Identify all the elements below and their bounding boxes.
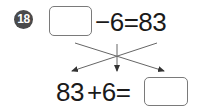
- answer-box-bottom[interactable]: [144, 77, 188, 106]
- bottom-start-value: 83: [56, 79, 84, 105]
- bottom-equation-text: +6=: [87, 79, 130, 105]
- arrow-diagonal-right-icon: [75, 43, 164, 71]
- arrow-diagonal-left-icon: [72, 43, 157, 71]
